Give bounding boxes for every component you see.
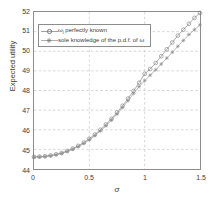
legend-marker-circle-icon (41, 27, 58, 36)
legend-entry-1-label: ωi perfectly known (58, 27, 107, 36)
legend-entry-1: ωi perfectly known (41, 27, 148, 36)
figure-canvas: 444546474849505152 Expected utility 00.5… (0, 0, 212, 201)
legend-marker-star-icon (41, 36, 58, 45)
y-axis-label: Expected utility (9, 16, 17, 116)
y-axis-tick-label: 44 (4, 167, 30, 174)
y-axis-tick-label: 45 (4, 147, 30, 154)
y-axis-tick-label: 51 (4, 27, 30, 34)
chart-legend: ωi perfectly known sole knowledge of the… (38, 24, 151, 47)
x-axis-tick-label: 1.5 (196, 174, 206, 181)
y-axis-tick-label: 46 (4, 127, 30, 134)
x-axis-label: σ (33, 185, 201, 194)
y-axis-tick-label: 52 (4, 8, 30, 15)
x-axis-tick-label: 0 (31, 174, 35, 181)
y-axis-tick-label: 47 (4, 107, 30, 114)
legend-entry-2: sole knowledge of the p.d.f. of ω (41, 36, 148, 45)
x-axis-tick-label: 0.5 (84, 174, 94, 181)
x-axis-tick-labels: 00.511.5 (33, 174, 201, 184)
legend-entry-2-label: sole knowledge of the p.d.f. of ω (58, 37, 144, 44)
x-axis-tick-label: 1 (143, 174, 147, 181)
